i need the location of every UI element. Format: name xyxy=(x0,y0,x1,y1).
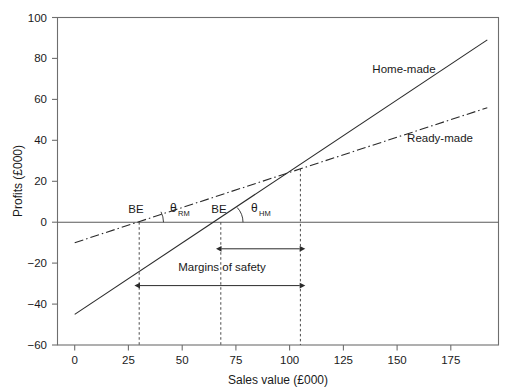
y-axis-tick-labels: 100 80 60 40 20 0 −20 −40 −60 xyxy=(27,12,47,352)
series-label-home-made: Home-made xyxy=(372,63,435,75)
x-axis-ticks xyxy=(75,345,451,351)
x-axis-tick-labels: 0 25 50 75 100 125 150 175 xyxy=(71,354,460,366)
x-axis-title: Sales value (£000) xyxy=(228,373,328,387)
y-tick-label: 0 xyxy=(41,216,47,228)
x-tick-label: 125 xyxy=(334,354,353,366)
x-tick-label: 50 xyxy=(176,354,189,366)
theta-label-ready-made: θ RM xyxy=(170,201,190,218)
y-tick-label: 100 xyxy=(28,12,47,24)
y-tick-label: 20 xyxy=(34,175,47,187)
y-tick-label: 80 xyxy=(34,52,47,64)
x-tick-label: 25 xyxy=(122,354,135,366)
y-tick-label: −40 xyxy=(27,298,47,310)
x-tick-label: 150 xyxy=(388,354,407,366)
y-tick-label: −60 xyxy=(27,339,47,351)
theta-subscript-rm: RM xyxy=(178,209,190,218)
label-margins-of-safety: Margins of safety xyxy=(178,261,266,273)
x-tick-label: 75 xyxy=(230,354,243,366)
angle-arc-ready-made xyxy=(161,212,164,222)
theta-label-home-made: θ HM xyxy=(251,201,271,218)
y-tick-label: 40 xyxy=(34,134,47,146)
angle-arc-home-made xyxy=(237,208,243,223)
breakeven-chart: 100 80 60 40 20 0 −20 −40 −60 0 25 50 75 xyxy=(0,0,512,392)
y-tick-label: −20 xyxy=(27,257,47,269)
x-tick-label: 175 xyxy=(441,354,460,366)
y-axis-title: Profits (£000) xyxy=(11,145,25,217)
x-tick-label: 100 xyxy=(280,354,299,366)
label-break-even-ready-made: BE xyxy=(128,203,144,215)
chart-figure: 100 80 60 40 20 0 −20 −40 −60 0 25 50 75 xyxy=(0,0,512,392)
theta-glyph-rm: θ xyxy=(170,201,177,215)
y-tick-label: 60 xyxy=(34,93,47,105)
y-axis-ticks xyxy=(52,18,58,346)
series-line-home-made xyxy=(75,40,488,315)
series-label-ready-made: Ready-made xyxy=(407,132,473,144)
theta-subscript-hm: HM xyxy=(259,209,271,218)
theta-glyph-hm: θ xyxy=(251,201,258,215)
x-tick-label: 0 xyxy=(71,354,77,366)
label-break-even-home-made: BE xyxy=(211,203,227,215)
